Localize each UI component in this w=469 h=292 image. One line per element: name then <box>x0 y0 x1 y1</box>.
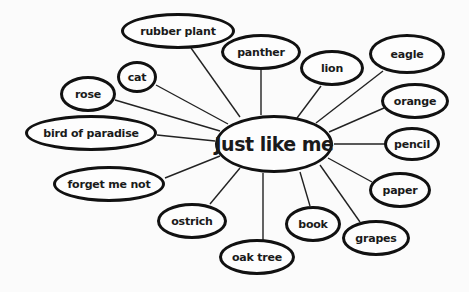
node-forget-me-not: forget me not <box>53 166 165 202</box>
node-grapes: grapes <box>342 220 410 256</box>
node-cat: cat <box>117 61 157 93</box>
node-pencil: pencil <box>384 127 440 161</box>
center-node: Just like me <box>215 115 333 173</box>
node-lion: lion <box>300 50 364 86</box>
node-paper: paper <box>369 172 431 208</box>
node-oak-tree: oak tree <box>219 239 295 275</box>
node-bird-of-paradise: bird of paradise <box>25 115 157 151</box>
node-ostrich: ostrich <box>157 203 227 239</box>
node-eagle: eagle <box>369 34 445 74</box>
node-book: book <box>285 206 341 242</box>
node-rose: rose <box>60 76 116 112</box>
concept-map: Just like me rubber plant panther lion e… <box>0 0 469 292</box>
node-orange: orange <box>381 83 449 119</box>
node-panther: panther <box>221 34 301 70</box>
node-rubber-plant: rubber plant <box>121 13 235 49</box>
